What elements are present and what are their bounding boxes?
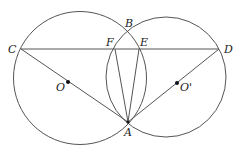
label-oprime: O' [180,81,192,94]
label-b: B [124,17,133,30]
point-dot-a [126,120,129,123]
segment-ca [21,49,128,122]
point-dot-o [66,80,70,84]
label-d: D [223,43,233,56]
label-f: F [105,36,114,49]
geometry-figure: ABCDEFOO' [0,0,243,152]
label-e: E [139,36,148,49]
center-dots [66,80,179,124]
point-dot-oprime [175,81,179,85]
segment-da [128,49,219,122]
label-c: C [8,43,17,56]
label-o: O [56,81,65,94]
label-a: A [123,126,132,139]
